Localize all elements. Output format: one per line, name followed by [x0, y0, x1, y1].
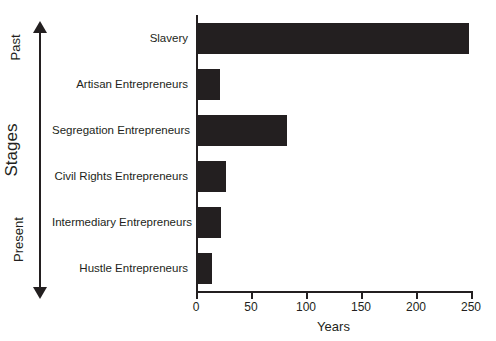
x-tick: [416, 293, 418, 299]
vertical-arrow-line: [39, 32, 41, 290]
plot-area: [196, 15, 473, 293]
category-label: Artisan Entrepreneurs: [52, 78, 188, 90]
bar: [198, 23, 469, 54]
category-label: Segregation Entrepreneurs: [52, 124, 188, 136]
x-axis-tick-labels: 050100150200250: [196, 300, 471, 316]
bar: [198, 207, 221, 238]
bar: [198, 115, 287, 146]
x-tick: [196, 293, 198, 299]
arrow-down-icon: [33, 287, 47, 299]
y-axis-title: Stages: [2, 110, 22, 190]
x-tick-label: 250: [451, 300, 491, 314]
x-tick-label: 50: [231, 300, 271, 314]
x-tick-label: 100: [286, 300, 326, 314]
bar-chart-figure: Past Stages Present SlaveryArtisan Entre…: [0, 0, 496, 341]
axis-label-past: Past: [8, 20, 23, 76]
x-tick: [361, 293, 363, 299]
x-tick-label: 150: [341, 300, 381, 314]
x-axis-title: Years: [196, 319, 471, 334]
x-tick: [306, 293, 308, 299]
category-label-list: SlaveryArtisan EntrepreneursSegregation …: [52, 15, 188, 291]
x-tick-label: 0: [176, 300, 216, 314]
category-label: Civil Rights Entrepreneurs: [52, 170, 188, 182]
x-tick: [471, 293, 473, 299]
category-label: Intermediary Entrepreneurs: [52, 216, 188, 228]
x-tick: [251, 293, 253, 299]
category-label: Slavery: [52, 32, 188, 44]
bar: [198, 253, 212, 284]
category-label: Hustle Entrepreneurs: [52, 262, 188, 274]
x-tick-label: 200: [396, 300, 436, 314]
bar: [198, 69, 220, 100]
axis-label-present: Present: [11, 202, 26, 278]
bar: [198, 161, 226, 192]
